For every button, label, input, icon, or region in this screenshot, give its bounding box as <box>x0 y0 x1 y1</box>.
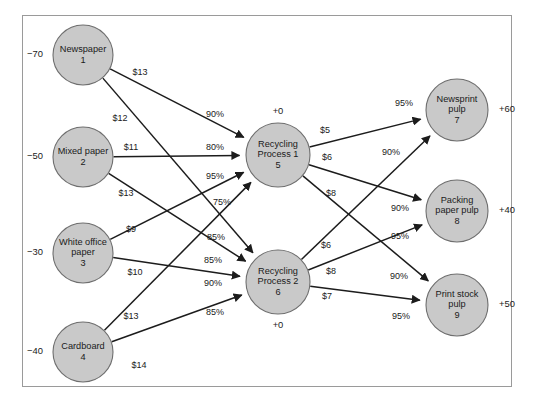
node-label-7-line-0: Newsprint <box>437 94 478 104</box>
arc-cost-label-5-9: $8 <box>326 188 336 198</box>
node-supply-label-5: +0 <box>273 105 284 116</box>
arc-yield-label-6-7: 90% <box>382 147 400 157</box>
node-label-7-line-2: 7 <box>454 115 459 125</box>
arc-yield-label-5-9: 90% <box>390 271 408 281</box>
node-label-3-line-1: paper <box>71 247 95 257</box>
node-label-4-line-0: Cardboard <box>61 341 104 351</box>
arc-yield-label-1-5: 90% <box>206 109 224 119</box>
arc-yield-label-4-6: 85% <box>206 307 224 317</box>
arc-yield-label-2-6: 85% <box>204 255 222 265</box>
arc-yield-label-5-7: 95% <box>395 98 413 108</box>
arc-yield-label-3-5: 95% <box>206 171 224 181</box>
node-label-7-line-1: pulp <box>448 104 465 114</box>
node-label-8-line-0: Packing <box>441 195 474 205</box>
node-supply-label-2: −50 <box>27 150 43 161</box>
arc-cost-label-1-6: $12 <box>112 113 127 123</box>
arc-cost-label-3-6: $10 <box>127 267 142 277</box>
node-supply-label-7: +60 <box>499 103 515 114</box>
arc-cost-label-3-5: $9 <box>126 224 136 234</box>
arc-cost-label-1-5: $13 <box>132 67 147 77</box>
node-label-9-line-1: pulp <box>448 299 465 309</box>
arc-cost-label-6-9: $7 <box>322 291 332 301</box>
node-label-2-line-0: Mixed paper <box>58 146 109 156</box>
arc-yield-label-6-9: 95% <box>392 311 410 321</box>
node-label-6-line-2: 6 <box>275 287 280 297</box>
arc-2-to-6 <box>109 173 246 261</box>
arc-cost-label-5-8: $6 <box>322 152 332 162</box>
node-supply-label-1: −70 <box>27 48 43 59</box>
node-label-6-line-1: Process 2 <box>258 276 299 286</box>
arc-1-to-5 <box>110 69 244 138</box>
network-flow-diagram: Newspaper1Mixed paper2White officepaper3… <box>0 0 536 418</box>
node-label-8-line-1: paper pulp <box>435 205 478 215</box>
node-supply-label-8: +40 <box>499 204 515 215</box>
node-supply-label-4: −40 <box>27 345 43 356</box>
arc-cost-label-2-5: $11 <box>124 142 138 152</box>
node-label-5-line-0: Recycling <box>258 139 298 149</box>
node-label-9-line-2: 9 <box>454 310 459 320</box>
arc-cost-label-5-7: $5 <box>320 125 330 135</box>
arc-cost-label-6-8: $8 <box>326 266 336 276</box>
arc-cost-label-2-6: $13 <box>118 188 133 198</box>
nodes-group: Newspaper1Mixed paper2White officepaper3… <box>53 25 488 382</box>
node-supply-label-3: −30 <box>27 246 43 257</box>
node-label-8-line-2: 8 <box>454 216 459 226</box>
node-supply-label-9: +50 <box>499 298 515 309</box>
arc-yield-label-6-8: 95% <box>391 231 409 241</box>
arc-yield-label-5-8: 90% <box>391 203 409 213</box>
arc-yield-label-1-6: 85% <box>207 232 225 242</box>
diagram-svg: Newspaper1Mixed paper2White officepaper3… <box>0 0 536 418</box>
arc-yield-label-2-5: 80% <box>206 142 224 152</box>
node-label-5-line-1: Process 1 <box>258 149 299 159</box>
node-label-1-line-1: 1 <box>80 55 85 65</box>
node-label-5-line-2: 5 <box>275 160 280 170</box>
node-supply-label-6: +0 <box>273 319 284 330</box>
arc-2-to-5 <box>113 155 239 156</box>
arc-cost-label-4-5: $13 <box>123 311 138 321</box>
arc-yield-label-3-6: 90% <box>204 278 222 288</box>
node-label-1-line-0: Newspaper <box>60 44 106 54</box>
node-label-3-line-2: 3 <box>80 258 85 268</box>
node-label-9-line-0: Print stock <box>436 289 479 299</box>
node-label-4-line-1: 4 <box>80 352 85 362</box>
arc-cost-label-4-6: $14 <box>131 360 146 370</box>
node-label-3-line-0: White office <box>59 237 107 247</box>
arc-cost-label-6-7: $6 <box>321 240 331 250</box>
node-label-2-line-1: 2 <box>80 157 85 167</box>
node-label-6-line-0: Recycling <box>258 266 298 276</box>
arc-yield-label-4-5: 75% <box>213 197 231 207</box>
